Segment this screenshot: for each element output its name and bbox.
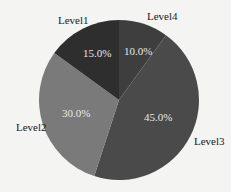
pct-level2: 30.0% <box>62 107 90 119</box>
pie-chart: Level1 Level4 Level2 Level3 15.0% 10.0% … <box>0 0 231 192</box>
label-level1: Level1 <box>58 14 89 26</box>
pct-level4: 10.0% <box>124 45 152 57</box>
label-level2: Level2 <box>16 121 47 133</box>
pie-slices <box>39 20 199 180</box>
label-level3: Level3 <box>194 135 225 147</box>
pct-level3: 45.0% <box>144 111 172 123</box>
label-level4: Level4 <box>147 10 178 22</box>
pct-level1: 15.0% <box>83 47 111 59</box>
